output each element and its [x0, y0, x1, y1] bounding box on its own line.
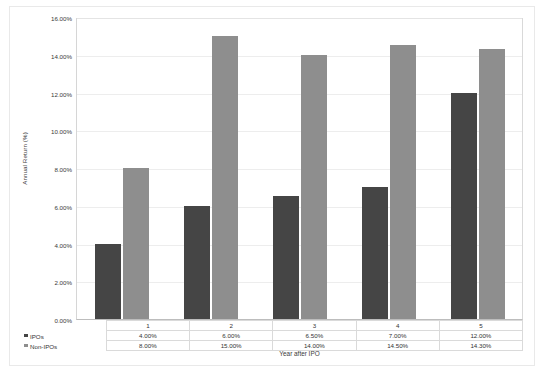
data-table-body: 12345IPOs4.00%6.00%6.50%7.00%12.00%Non-I…: [23, 321, 523, 351]
y-axis-tick-label: 10.00%: [28, 128, 72, 135]
bar-group: [255, 18, 344, 319]
data-table-header-row: 12345: [23, 321, 523, 331]
data-table-cell: 14.00%: [273, 341, 356, 351]
bar-group: [166, 18, 255, 319]
data-table-corner: [23, 321, 106, 331]
bar-non-ipos-year-2: [212, 36, 238, 319]
data-table-cell: 4.00%: [106, 331, 189, 341]
bar-group: [344, 18, 433, 319]
legend-item-non-ipos: Non-IPOs: [23, 341, 106, 351]
chart-data-table: 12345IPOs4.00%6.00%6.50%7.00%12.00%Non-I…: [23, 320, 523, 351]
bar-ipos-year-5: [451, 93, 477, 320]
y-axis-tick-label: 14.00%: [28, 52, 72, 59]
y-axis-tick-label: 8.00%: [28, 166, 72, 173]
y-axis-tick-label: 16.00%: [28, 15, 72, 22]
data-table-row: IPOs4.00%6.00%6.50%7.00%12.00%: [23, 331, 523, 341]
data-table-cell: 8.00%: [106, 341, 189, 351]
y-axis-tick-label: 2.00%: [28, 279, 72, 286]
x-axis-category-label: 1: [106, 321, 189, 331]
bar-ipos-year-2: [184, 206, 210, 319]
legend-label: IPOs: [30, 332, 44, 339]
bar-non-ipos-year-3: [301, 55, 327, 319]
bar-non-ipos-year-4: [390, 45, 416, 319]
x-axis-title: Year after IPO: [76, 350, 523, 357]
legend-swatch-icon: [24, 334, 28, 338]
bar-ipos-year-1: [95, 244, 121, 320]
bar-ipos-year-3: [273, 196, 299, 319]
y-axis-tick-labels: 16.00%14.00%12.00%10.00%8.00%6.00%4.00%2…: [28, 18, 72, 320]
data-table-cell: 14.50%: [356, 341, 439, 351]
bar-group: [433, 18, 522, 319]
legend-item-ipos: IPOs: [23, 331, 106, 341]
bar-non-ipos-year-5: [479, 49, 505, 319]
legend-swatch-icon: [24, 344, 28, 348]
x-axis-category-label: 2: [190, 321, 273, 331]
chart-container: Annual Return (%) 16.00%14.00%12.00%10.0…: [0, 0, 544, 375]
data-table-cell: 14.30%: [439, 341, 522, 351]
data-table-row: Non-IPOs8.00%15.00%14.00%14.50%14.30%: [23, 341, 523, 351]
bars-layer: [77, 18, 522, 319]
legend-label: Non-IPOs: [30, 342, 57, 349]
bar-ipos-year-4: [362, 187, 388, 319]
x-axis-category-label: 5: [439, 321, 522, 331]
plot-area: [76, 18, 523, 320]
data-table-cell: 15.00%: [190, 341, 273, 351]
data-table-cell: 6.00%: [190, 331, 273, 341]
data-table-cell: 7.00%: [356, 331, 439, 341]
x-axis-category-label: 3: [273, 321, 356, 331]
y-axis-tick-label: 12.00%: [28, 90, 72, 97]
y-axis-tick-label: 4.00%: [28, 241, 72, 248]
data-table-cell: 12.00%: [439, 331, 522, 341]
bar-non-ipos-year-1: [123, 168, 149, 319]
y-axis-title: Annual Return (%): [21, 104, 28, 214]
data-table-cell: 6.50%: [273, 331, 356, 341]
y-axis-tick-label: 6.00%: [28, 203, 72, 210]
bar-group: [77, 18, 166, 319]
x-axis-category-label: 4: [356, 321, 439, 331]
